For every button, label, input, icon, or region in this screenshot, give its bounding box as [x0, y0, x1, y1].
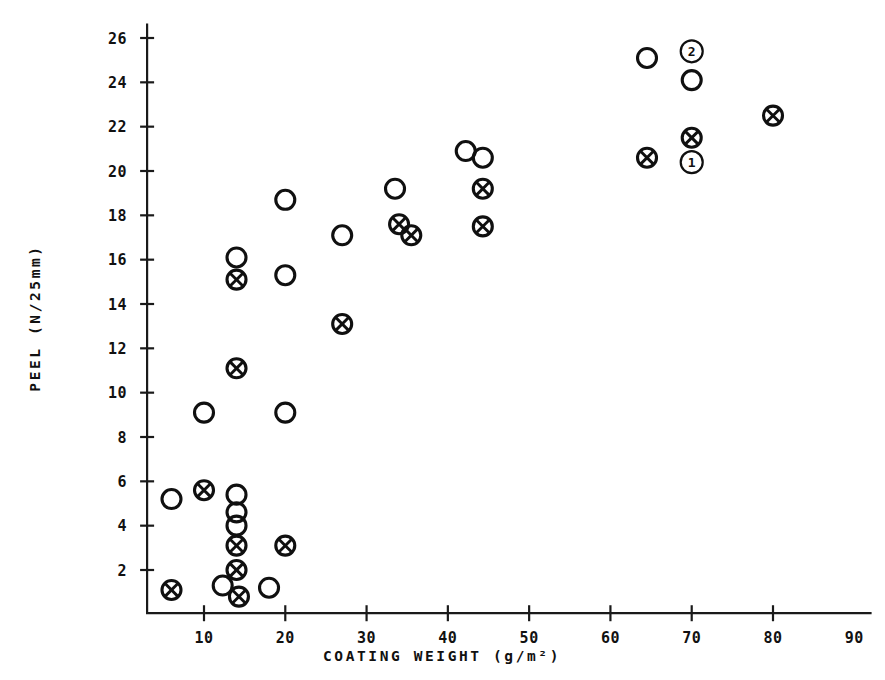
data-point-crossed-circle-6	[227, 270, 246, 289]
circle-glyph	[276, 190, 295, 209]
y-tick-label-16: 16	[108, 251, 127, 269]
y-axis-title: PEEL (N/25mm)	[27, 244, 43, 391]
circle-glyph	[473, 148, 492, 167]
data-point-crossed-circle-0	[162, 580, 181, 599]
data-points	[162, 48, 783, 606]
circle-glyph	[333, 226, 352, 245]
x-tick-label-40: 40	[438, 629, 457, 647]
data-point-crossed-circle-15	[764, 106, 783, 125]
data-point-open-circle-3	[227, 485, 246, 504]
data-point-open-circle-14	[473, 148, 492, 167]
data-point-crossed-circle-4	[229, 587, 248, 606]
annotation-circled-1: 1	[681, 151, 703, 173]
y-tick-label-8: 8	[118, 429, 128, 447]
circle-glyph	[386, 179, 405, 198]
data-point-crossed-circle-11	[473, 179, 492, 198]
axis-tick-labels: 2468101214161820222426102030405060708090	[108, 30, 864, 648]
circle-glyph	[276, 266, 295, 285]
data-point-crossed-circle-12	[473, 217, 492, 236]
circle-glyph	[276, 403, 295, 422]
circle-glyph	[260, 578, 279, 597]
x-tick-label-10: 10	[194, 629, 213, 647]
axis-spine	[147, 25, 870, 614]
annotation-circled-2: 2	[681, 40, 703, 62]
y-tick-label-6: 6	[118, 473, 128, 491]
data-point-open-circle-5	[227, 516, 246, 535]
x-tick-label-90: 90	[845, 629, 864, 647]
x-tick-label-80: 80	[763, 629, 782, 647]
circle-glyph	[227, 485, 246, 504]
data-point-crossed-circle-2	[227, 536, 246, 555]
data-point-open-circle-2	[195, 403, 214, 422]
circle-glyph	[162, 490, 181, 509]
data-point-open-circle-10	[276, 190, 295, 209]
y-tick-label-14: 14	[108, 296, 127, 314]
y-tick-label-26: 26	[108, 30, 127, 48]
y-tick-label-22: 22	[108, 118, 127, 136]
scatter-plot-figure: 2468101214161820222426102030405060708090…	[0, 0, 885, 680]
y-tick-label-12: 12	[108, 340, 127, 358]
data-point-crossed-circle-1	[195, 481, 214, 500]
data-point-open-circle-8	[276, 403, 295, 422]
x-tick-label-60: 60	[601, 629, 620, 647]
x-tick-label-50: 50	[520, 629, 539, 647]
data-point-crossed-circle-3	[227, 561, 246, 580]
y-tick-label-2: 2	[118, 562, 128, 580]
axes	[147, 25, 870, 614]
data-point-crossed-circle-14	[682, 128, 701, 147]
y-tick-label-4: 4	[118, 517, 128, 535]
x-tick-label-30: 30	[357, 629, 376, 647]
y-tick-label-18: 18	[108, 207, 127, 225]
annotation-label: 1	[688, 155, 696, 170]
data-point-open-circle-6	[227, 248, 246, 267]
circle-glyph	[682, 71, 701, 90]
circle-glyph	[227, 516, 246, 535]
data-point-crossed-circle-8	[333, 314, 352, 333]
data-point-crossed-circle-7	[276, 536, 295, 555]
x-tick-label-70: 70	[682, 629, 701, 647]
circle-glyph	[227, 248, 246, 267]
circle-glyph	[195, 403, 214, 422]
plot-canvas: 2468101214161820222426102030405060708090…	[0, 0, 885, 680]
y-tick-label-24: 24	[108, 74, 127, 92]
data-point-open-circle-7	[260, 578, 279, 597]
data-point-open-circle-12	[386, 179, 405, 198]
data-point-crossed-circle-5	[227, 359, 246, 378]
y-tick-label-10: 10	[108, 384, 127, 402]
data-point-open-circle-0	[162, 490, 181, 509]
circle-glyph	[638, 48, 657, 67]
data-point-crossed-circle-13	[638, 148, 657, 167]
x-axis-title: COATING WEIGHT (g/m²)	[323, 648, 561, 664]
annotation-label: 2	[688, 44, 696, 59]
y-tick-label-20: 20	[108, 163, 127, 181]
data-point-open-circle-9	[276, 266, 295, 285]
data-point-open-circle-16	[682, 71, 701, 90]
point-annotations: 21	[681, 40, 703, 173]
data-point-open-circle-11	[333, 226, 352, 245]
data-point-crossed-circle-10	[402, 226, 421, 245]
x-tick-label-20: 20	[276, 629, 295, 647]
data-point-open-circle-15	[638, 48, 657, 67]
